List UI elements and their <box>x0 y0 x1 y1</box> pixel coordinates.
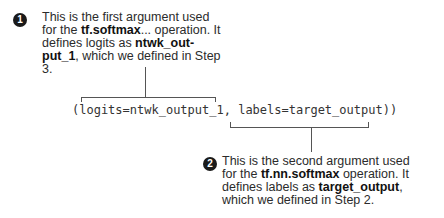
bracket-2-bar <box>230 127 369 128</box>
callout-1-line-4: put_1, which we defined in Step <box>42 50 242 63</box>
callout-2-text: This is the second argument used for the… <box>222 155 442 207</box>
bracket-1-bar <box>81 97 216 98</box>
bracket-1-right-tick <box>215 97 216 102</box>
code-line: (logits=ntwk_output_1, labels=target_out… <box>72 103 397 117</box>
callout-2-line-4: which we defined in Step 2. <box>222 194 442 207</box>
callout-1-line-5: 3. <box>42 63 242 76</box>
callout-1-text: This is the first argument used for the … <box>42 11 242 76</box>
callout-number-1-icon: 1 <box>13 13 27 27</box>
bracket-1-left-tick <box>81 97 82 102</box>
bracket-1-stem <box>145 67 146 98</box>
callout-number-2-icon: 2 <box>203 157 217 171</box>
bracket-2-stem <box>311 127 312 152</box>
